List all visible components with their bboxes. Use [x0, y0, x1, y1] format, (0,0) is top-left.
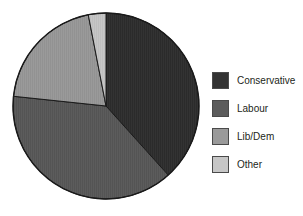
- legend-swatch-other: [212, 156, 229, 173]
- legend-item-labour[interactable]: Labour: [212, 94, 303, 122]
- legend-label-other: Other: [237, 159, 262, 170]
- chart-legend: Conservative Labour Lib/Dem Other: [212, 66, 303, 178]
- legend-item-other[interactable]: Other: [212, 150, 303, 178]
- legend-item-conservative[interactable]: Conservative: [212, 66, 303, 94]
- legend-label-libdem: Lib/Dem: [237, 131, 274, 142]
- legend-swatch-labour: [212, 100, 229, 117]
- pie-chart-figure: Conservative Labour Lib/Dem Other: [0, 0, 303, 216]
- pie-slices-group: [13, 13, 199, 199]
- legend-item-libdem[interactable]: Lib/Dem: [212, 122, 303, 150]
- legend-swatch-libdem: [212, 128, 229, 145]
- legend-label-conservative: Conservative: [237, 75, 295, 86]
- legend-label-labour: Labour: [237, 103, 268, 114]
- legend-swatch-conservative: [212, 72, 229, 89]
